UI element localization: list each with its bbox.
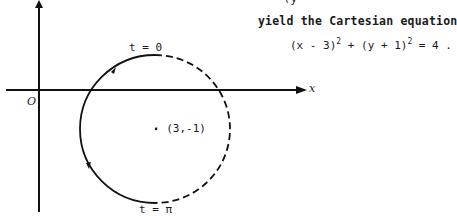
t-pi-label: t = π [139, 203, 172, 216]
cut-off-text: (y [283, 0, 297, 5]
cartesian-equation: (x - 3)2 + (y + 1)2 = 4 . [290, 37, 452, 52]
x-axis-label: x [309, 82, 315, 95]
y-axis-arrow-icon [35, 0, 43, 8]
eq-part-3: = 4 . [412, 39, 452, 52]
solid-arc [80, 55, 155, 203]
t-zero-label: t = 0 [129, 41, 162, 54]
origin-label: O [27, 95, 36, 108]
x-axis-arrow-icon [296, 86, 307, 94]
eq-part-1: (x - 3) [290, 39, 336, 52]
center-label: · (3,-1) [153, 122, 206, 135]
eq-part-2: + (y + 1) [341, 39, 407, 52]
yield-line: yield the Cartesian equation [258, 14, 457, 28]
